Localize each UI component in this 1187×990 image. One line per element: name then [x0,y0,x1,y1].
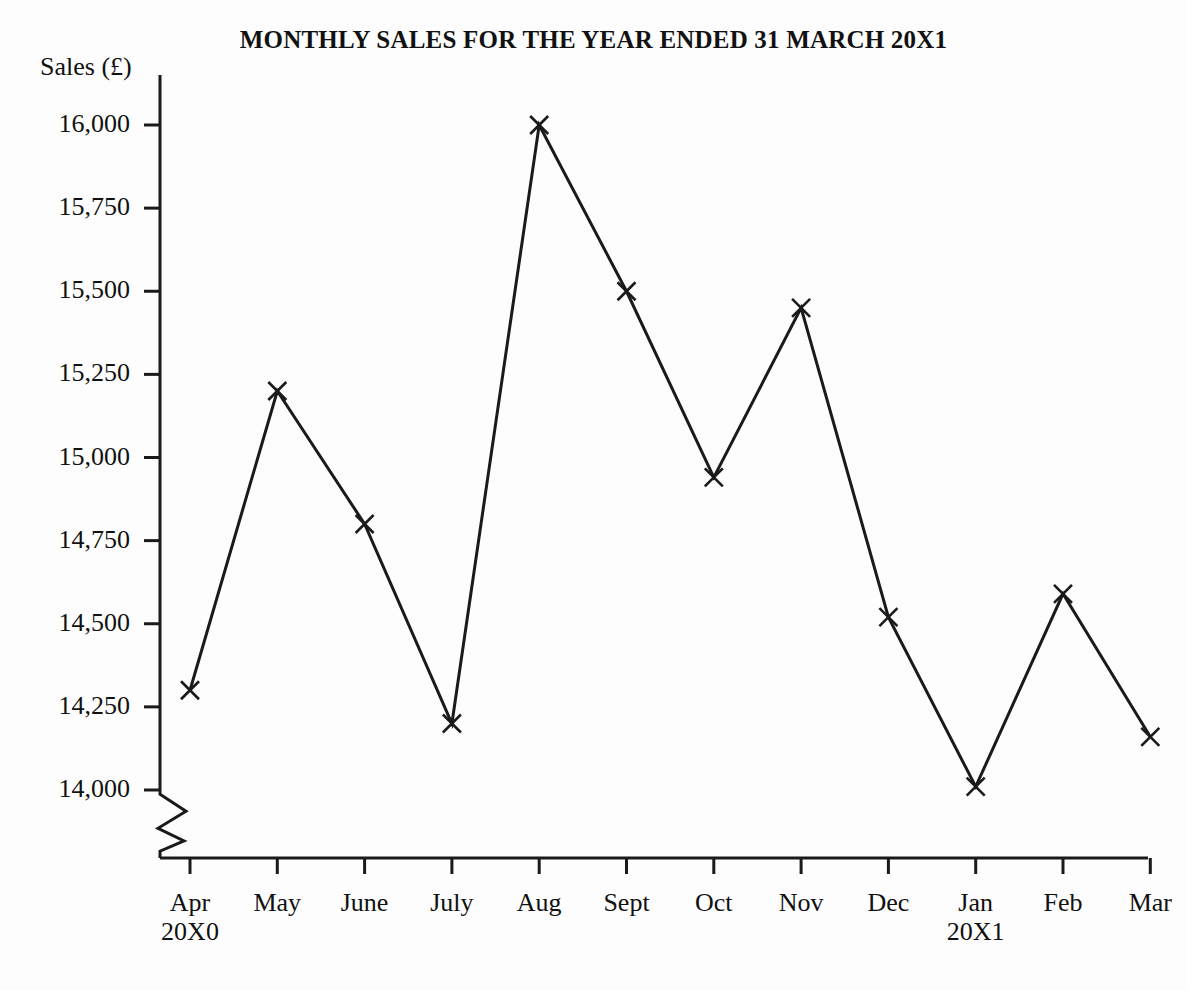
data-point-marker [792,299,810,317]
data-point-marker [705,468,723,486]
data-point-marker [967,778,985,796]
x-axis-tick-sublabel: 20X1 [901,917,1051,946]
x-axis-tick-sublabel: 20X0 [115,917,265,946]
y-axis-tick-label: 15,500 [0,277,130,303]
y-axis-tick-label: 15,250 [0,360,130,386]
chart-plot-area [0,0,1187,990]
y-axis-tick-label: 15,000 [0,444,130,470]
data-series-line [190,125,1150,787]
y-axis-tick-label: 15,750 [0,194,130,220]
axes-group [144,75,1150,874]
y-axis-tick-label: 14,000 [0,776,130,802]
data-point-marker [618,282,636,300]
data-point-marker [1141,728,1159,746]
y-axis-tick-label: 16,000 [0,111,130,137]
data-point-marker [879,608,897,626]
data-point-marker [181,681,199,699]
y-axis-tick-label: 14,750 [0,527,130,553]
data-point-markers [181,116,1159,796]
chart-container: MONTHLY SALES FOR THE YEAR ENDED 31 MARC… [0,0,1187,990]
data-point-marker [268,382,286,400]
x-axis-tick-label: Mar [1075,888,1187,917]
y-axis-tick-label: 14,500 [0,610,130,636]
y-axis-tick-label: 14,250 [0,693,130,719]
data-point-marker [1054,585,1072,603]
data-point-marker [356,515,374,533]
